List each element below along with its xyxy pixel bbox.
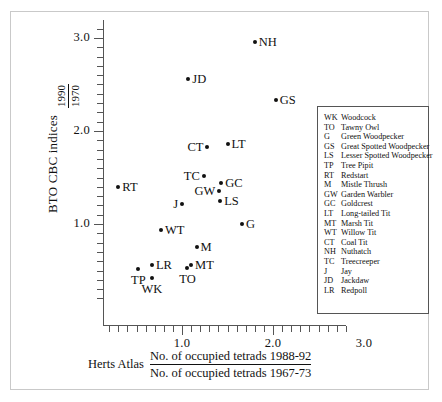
scatter-point-tc [202,174,206,178]
legend-row: GWGarden Warbler [324,190,424,200]
x-axis-tick [182,326,183,335]
point-label-nh: NH [259,36,277,49]
scatter-point-ls [218,199,222,203]
x-axis-tick [337,326,338,332]
legend-code: LS [324,151,341,161]
legend-row: JJay [324,267,424,277]
y-axis-tick [97,298,103,299]
y-axis-tick [97,187,103,188]
y-axis-tick [97,122,103,123]
y-axis-fraction: 1990 1970 [56,84,81,108]
point-label-wk: WK [142,283,163,296]
y-axis-tick [97,280,103,281]
chart-page: 1.02.03.01.02.03.0 NHJDGSLTCTTCGCRTGWLSJ… [0,0,442,402]
legend-code: JD [324,276,341,286]
x-axis-tick [328,326,329,332]
x-axis-tick [255,326,256,332]
y-axis-tick [94,224,103,225]
y-axis-tick [97,215,103,216]
legend-row: GSGreat Spotted Woodpecker [324,142,424,152]
y-axis-tick [97,75,103,76]
x-axis-tick [118,326,119,332]
scatter-point-tp [136,267,140,271]
point-label-gs: GS [280,94,296,107]
x-tick-label: 3.0 [344,336,384,351]
legend-row: TPTree Pipit [324,161,424,171]
y-axis-tick [97,94,103,95]
scatter-point-mt [189,263,193,267]
x-axis-tick [319,326,320,332]
x-axis-tick [155,326,156,332]
legend-species-name: Green Woodpecker [341,132,424,142]
y-axis-tick [97,178,103,179]
x-axis-tick [164,326,165,332]
point-label-lt: LT [232,138,246,151]
legend-code: TP [324,161,341,171]
y-axis-tick [97,271,103,272]
y-tick-label: 3.0 [60,30,90,45]
x-axis-tick [264,326,265,332]
x-axis-prefix: Herts Atlas [88,357,144,372]
legend-code: LR [324,286,341,296]
legend-row: WTWillow Tit [324,228,424,238]
legend-code: WT [324,228,341,238]
point-label-ls: LS [224,195,239,208]
legend-code: WK [324,113,341,123]
legend-code: GS [324,142,341,152]
scatter-point-wk [150,276,154,280]
point-label-ct: CT [187,141,203,154]
y-fraction-numerator: 1990 [56,84,69,108]
x-fraction-denominator: No. of occupied tetrads 1967-73 [150,365,311,381]
scatter-point-gw [217,189,221,193]
legend-species-name: Jackdaw [341,276,424,286]
scatter-point-m [195,245,199,249]
y-axis-tick [97,47,103,48]
legend-row: RTRedstart [324,171,424,181]
legend-row: NHNuthatch [324,247,424,257]
y-axis-tick [94,38,103,39]
x-axis-tick [246,326,247,332]
y-axis-tick [97,103,103,104]
legend-species-name: Great Spotted Woodpecker [341,142,429,152]
y-axis-tick [97,261,103,262]
point-label-rt: RT [122,181,137,194]
legend-species-name: Willow Tit [341,228,424,238]
legend-species-name: Treecreeper [341,257,424,267]
legend-code: MT [324,219,341,229]
x-axis-title: Herts Atlas No. of occupied tetrads 1988… [88,349,311,381]
legend-species-name: Lesser Spotted Woodpecker [341,151,433,161]
y-axis-tick [97,112,103,113]
legend-species-name: Tawny Owl [341,123,424,133]
y-axis-tick [97,289,103,290]
y-axis-title: BTO CBC indices [45,115,63,213]
y-axis-tick [97,57,103,58]
legend-code: GC [324,199,341,209]
y-axis-tick [97,252,103,253]
point-label-gw: GW [194,185,215,198]
legend-code: M [324,180,341,190]
y-axis-tick [97,243,103,244]
legend-row: GGreen Woodpecker [324,132,424,142]
y-axis-tick [97,205,103,206]
legend-row: LSLesser Spotted Woodpecker [324,151,424,161]
x-axis-tick [127,326,128,332]
y-axis-tick [97,233,103,234]
x-axis-tick [309,326,310,332]
legend-row: TCTreecreeper [324,257,424,267]
point-label-to: TO [179,273,195,286]
x-axis-tick [282,326,283,332]
x-fraction-numerator: No. of occupied tetrads 1988-92 [150,349,311,365]
legend-species-name: Marsh Tit [341,219,424,229]
y-axis-tick [97,159,103,160]
y-fraction-denominator: 1970 [69,84,82,108]
legend-row: TOTawny Owl [324,123,424,133]
legend-species-name: Nuthatch [341,247,424,257]
legend-row: LTLong-tailed Tit [324,209,424,219]
y-tick-label: 2.0 [60,123,90,138]
legend-species-name: Redstart [341,171,424,181]
x-axis-fraction: No. of occupied tetrads 1988-92 No. of o… [150,349,311,381]
point-label-mt: MT [195,259,214,272]
y-axis-tick [94,131,103,132]
x-axis-tick [137,326,138,332]
y-axis-tick [97,168,103,169]
